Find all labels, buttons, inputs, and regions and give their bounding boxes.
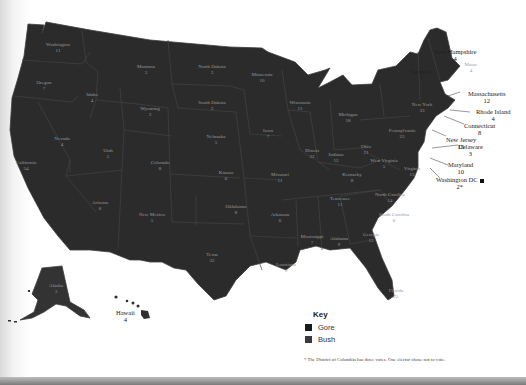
legend-label-bush: Bush bbox=[318, 335, 335, 344]
state-label-hawaii: Hawaii4 bbox=[116, 309, 135, 323]
footnote: * The District of Columbia has three vot… bbox=[304, 357, 445, 362]
legend-label-gore: Gore bbox=[318, 323, 335, 332]
bottom-edge-bar bbox=[0, 377, 526, 385]
legend: Key Gore Bush bbox=[305, 310, 335, 347]
callout-new-hampshire: New Hampshire4 bbox=[434, 48, 476, 62]
gore-swatch-icon bbox=[305, 324, 312, 331]
legend-item-bush: Bush bbox=[305, 335, 335, 344]
alaska-shape bbox=[20, 266, 90, 320]
bush-swatch-icon bbox=[305, 336, 312, 343]
callout-rhode-island: Rhode Island4 bbox=[476, 108, 510, 122]
map-stage: Washington11 Oregon7 California54 Nevada… bbox=[0, 0, 526, 385]
callout-vermont: Vermont3 bbox=[410, 68, 432, 82]
callout-massachusetts: Massachusetts12 bbox=[468, 90, 506, 104]
callout-connecticut: Connecticut8 bbox=[464, 122, 495, 136]
callout-maryland: Maryland10 bbox=[448, 161, 473, 175]
callout-washington-dc: Washington DC2* bbox=[436, 176, 484, 190]
legend-item-gore: Gore bbox=[305, 323, 335, 332]
legend-title: Key bbox=[313, 310, 335, 319]
callout-delaware: Delaware3 bbox=[458, 143, 483, 157]
dc-gore-square-icon bbox=[480, 179, 484, 183]
